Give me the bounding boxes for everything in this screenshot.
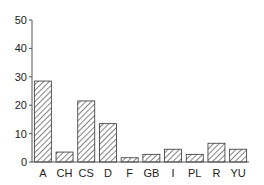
y-tick-label: 20 [15, 99, 27, 111]
x-category-label: D [104, 167, 112, 179]
x-axis: ACHCSDFGBIPLRYU [32, 162, 249, 179]
bar-r [208, 143, 225, 162]
y-tick-label: 10 [15, 128, 27, 140]
y-tick-label: 50 [15, 14, 27, 26]
x-category-label: A [39, 167, 47, 179]
bar-cs [78, 101, 95, 162]
x-category-label: PL [188, 167, 201, 179]
bar-yu [230, 149, 247, 162]
bar-f [121, 158, 138, 162]
bar-i [165, 149, 182, 162]
bar-chart: 01020304050 ACHCSDFGBIPLRYU [0, 0, 264, 185]
x-category-label: I [172, 167, 175, 179]
bars [34, 81, 246, 162]
x-category-label: R [212, 167, 220, 179]
x-category-label: CH [57, 167, 73, 179]
x-category-label: CS [79, 167, 94, 179]
y-axis: 01020304050 [15, 14, 32, 168]
x-category-label: GB [143, 167, 159, 179]
bar-pl [186, 154, 203, 162]
y-tick-label: 30 [15, 71, 27, 83]
bar-a [34, 81, 51, 162]
bar-gb [143, 154, 160, 162]
bar-ch [56, 152, 73, 162]
y-tick-label: 40 [15, 42, 27, 54]
y-tick-label: 0 [21, 156, 27, 168]
x-category-label: F [126, 167, 133, 179]
bar-d [99, 124, 116, 162]
x-category-label: YU [231, 167, 246, 179]
